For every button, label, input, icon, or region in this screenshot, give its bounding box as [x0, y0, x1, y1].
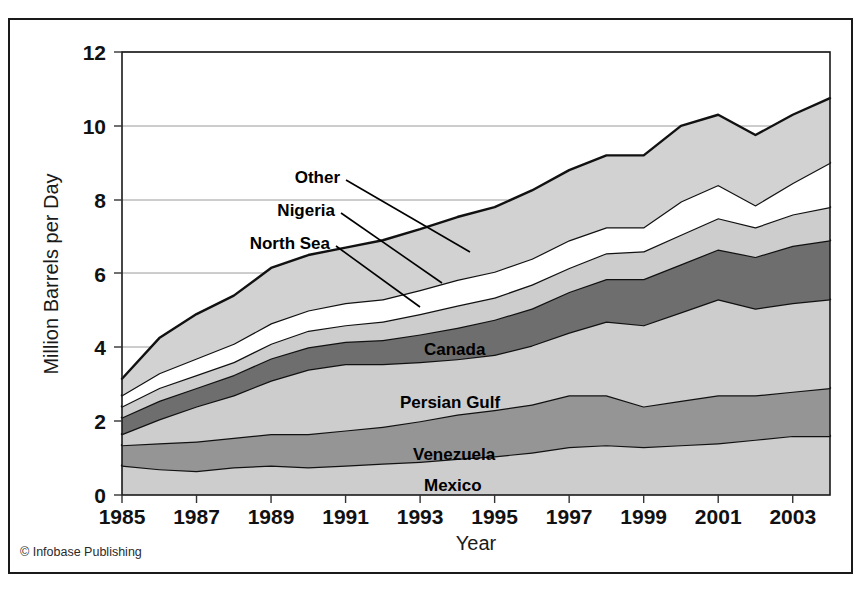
x-tickmarks	[122, 495, 793, 503]
x-tick-label-1989: 1989	[248, 505, 295, 528]
y-tick-label-0: 0	[94, 484, 106, 507]
y-tickmarks	[114, 52, 122, 495]
x-axis-title: Year	[456, 532, 497, 554]
series-label-venezuela: Venezuela	[413, 445, 496, 464]
x-tick-label-1993: 1993	[397, 505, 444, 528]
y-tick-label-12: 12	[83, 41, 106, 64]
x-tick-label-1987: 1987	[173, 505, 220, 528]
x-axis-tick-labels: 1985198719891991199319951997199920012003	[99, 505, 816, 528]
series-label-north-sea: North Sea	[250, 234, 331, 253]
series-label-persian-gulf: Persian Gulf	[400, 393, 500, 412]
y-axis-tick-labels: 024681012	[83, 41, 107, 507]
series-label-nigeria: Nigeria	[277, 201, 335, 220]
copyright-notice: © Infobase Publishing	[20, 545, 142, 559]
x-tick-label-1999: 1999	[620, 505, 667, 528]
x-tick-label-1985: 1985	[99, 505, 146, 528]
x-tick-label-2003: 2003	[769, 505, 816, 528]
y-tick-label-10: 10	[83, 115, 106, 138]
y-tick-label-2: 2	[94, 410, 106, 433]
series-label-other: Other	[295, 168, 341, 187]
x-tick-label-2001: 2001	[695, 505, 742, 528]
y-tick-label-4: 4	[94, 336, 106, 359]
series-label-mexico: Mexico	[424, 476, 482, 495]
x-tick-label-1991: 1991	[322, 505, 369, 528]
x-tick-label-1997: 1997	[546, 505, 593, 528]
series-label-canada: Canada	[424, 340, 486, 359]
y-tick-label-6: 6	[94, 263, 106, 286]
stacked-area-chart: 024681012 198519871989199119931995199719…	[0, 0, 862, 589]
y-axis-title: Million Barrels per Day	[40, 173, 62, 374]
y-tick-label-8: 8	[94, 189, 106, 212]
x-tick-label-1995: 1995	[471, 505, 518, 528]
area-bands	[122, 98, 830, 495]
